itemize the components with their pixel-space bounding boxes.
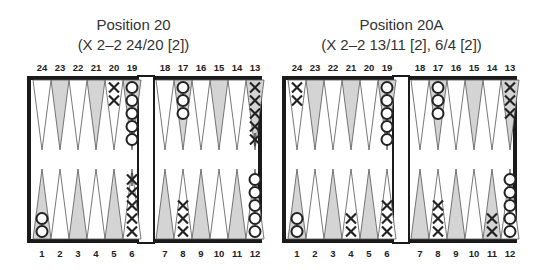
o-checker-icon bbox=[250, 226, 261, 237]
o-checker-icon bbox=[127, 95, 138, 106]
o-checker-icon bbox=[382, 95, 393, 106]
o-checker-icon bbox=[382, 82, 393, 93]
o-checker-icon bbox=[127, 121, 138, 132]
o-checker-icon bbox=[178, 82, 189, 93]
o-checker-icon bbox=[37, 226, 48, 237]
o-checker-icon bbox=[250, 213, 261, 224]
o-checker-icon bbox=[37, 213, 48, 224]
o-checker-icon bbox=[250, 187, 261, 198]
o-checker-icon bbox=[178, 95, 189, 106]
o-checker-icon bbox=[382, 134, 393, 145]
o-checker-icon bbox=[292, 213, 303, 224]
backgammon-boards bbox=[0, 0, 535, 270]
board-1 bbox=[284, 76, 519, 243]
board-0 bbox=[29, 76, 264, 243]
o-checker-icon bbox=[127, 82, 138, 93]
o-checker-icon bbox=[127, 108, 138, 119]
o-checker-icon bbox=[505, 226, 516, 237]
o-checker-icon bbox=[127, 134, 138, 145]
o-checker-icon bbox=[250, 174, 261, 185]
o-checker-icon bbox=[292, 226, 303, 237]
o-checker-icon bbox=[382, 121, 393, 132]
o-checker-icon bbox=[250, 200, 261, 211]
o-checker-icon bbox=[178, 108, 189, 119]
o-checker-icon bbox=[505, 213, 516, 224]
o-checker-icon bbox=[433, 108, 444, 119]
o-checker-icon bbox=[433, 95, 444, 106]
o-checker-icon bbox=[505, 174, 516, 185]
o-checker-icon bbox=[433, 82, 444, 93]
o-checker-icon bbox=[505, 187, 516, 198]
o-checker-icon bbox=[382, 108, 393, 119]
o-checker-icon bbox=[505, 200, 516, 211]
